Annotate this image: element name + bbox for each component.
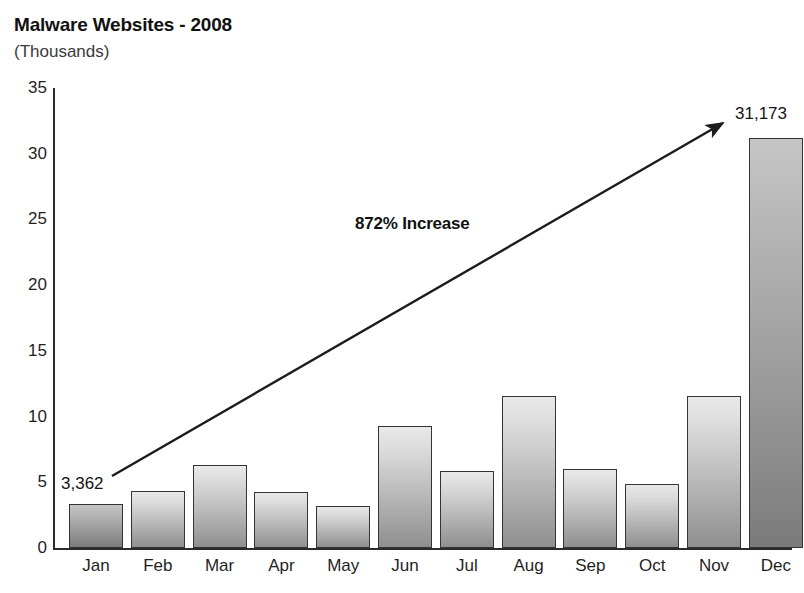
value-label-dec: 31,173: [735, 104, 787, 124]
y-tick-label-0: 0: [3, 538, 47, 558]
bar-may: [316, 506, 370, 548]
y-tick-label-5: 5: [3, 472, 47, 492]
x-tick-label-mar: Mar: [193, 556, 247, 576]
bar-sep: [563, 469, 617, 548]
y-tick-label-25: 25: [3, 209, 47, 229]
x-tick-label-oct: Oct: [625, 556, 679, 576]
x-tick-label-feb: Feb: [131, 556, 185, 576]
x-tick-label-dec: Dec: [749, 556, 803, 576]
y-tick-label-30: 30: [3, 144, 47, 164]
bar-jul: [440, 471, 494, 548]
bar-aug: [502, 396, 556, 548]
x-tick-label-aug: Aug: [502, 556, 556, 576]
y-axis-line: [53, 88, 55, 550]
bar-oct: [625, 484, 679, 548]
value-label-jan: 3,362: [61, 474, 104, 494]
bar-nov: [687, 396, 741, 548]
bar-apr: [254, 492, 308, 548]
bar-jun: [378, 426, 432, 548]
y-tick-label-35: 35: [3, 78, 47, 98]
y-tick-label-10: 10: [3, 407, 47, 427]
bar-feb: [131, 491, 185, 548]
x-tick-label-nov: Nov: [687, 556, 741, 576]
x-tick-label-may: May: [316, 556, 370, 576]
x-axis-line: [53, 548, 792, 550]
bar-mar: [193, 465, 247, 548]
x-tick-label-sep: Sep: [563, 556, 617, 576]
increase-annotation-label: 872% Increase: [355, 214, 470, 234]
bar-jan: [69, 504, 123, 548]
x-tick-label-jun: Jun: [378, 556, 432, 576]
y-tick-label-15: 15: [3, 341, 47, 361]
x-tick-label-jan: Jan: [69, 556, 123, 576]
y-tick-label-20: 20: [3, 275, 47, 295]
plot-area: 05101520253035 JanFebMarAprMayJunJulAugS…: [0, 0, 804, 593]
x-tick-label-jul: Jul: [440, 556, 494, 576]
chart-figure: Malware Websites - 2008 (Thousands) 0510…: [0, 0, 804, 593]
x-tick-label-apr: Apr: [254, 556, 308, 576]
bar-dec: [749, 138, 803, 548]
